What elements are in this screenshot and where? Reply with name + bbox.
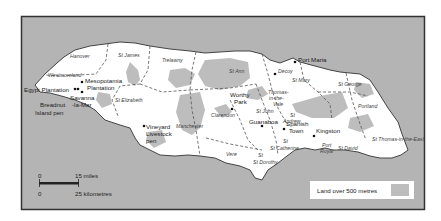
place-label: -la-Mar (72, 101, 92, 108)
parish-label: St Ann (229, 68, 244, 74)
legend-label: Land over 500 metres (317, 187, 377, 194)
scale-km-zero: 0 (38, 190, 42, 197)
parish-label: St Mary (292, 77, 310, 83)
place-label: Egypt Plantation (24, 86, 70, 93)
parish-label: St Thomas-in-the-East (372, 136, 424, 142)
place-label: Town (289, 127, 304, 134)
parish-label: St Elizabeth (115, 97, 143, 103)
parish-label: Clarendon (211, 112, 235, 118)
scale-km-label: 25 kilometres (75, 190, 112, 197)
parish-label: Portland (358, 103, 378, 109)
parish-label: Vere (226, 151, 237, 157)
place-label: Vineyard (146, 123, 171, 130)
place-label: Park (234, 98, 248, 105)
place-label: Mesopotamia (85, 77, 123, 84)
place-label: Royal (320, 148, 334, 154)
scale-bar-line (39, 182, 79, 185)
parish-label: St Catherine (270, 145, 299, 151)
place-label: Breadnut (40, 101, 65, 108)
legend-swatch (391, 184, 409, 196)
parish-label: St David (338, 145, 359, 151)
place-label: Guanaboa (249, 118, 278, 125)
place-label: Plantation (87, 84, 115, 91)
parish-label: Trelawny (162, 57, 183, 63)
place-label: Spanish (286, 120, 309, 127)
place-label: Savanna (70, 94, 95, 101)
parish-label: Manchester (176, 123, 203, 129)
place-label: pen (146, 137, 157, 144)
parish-label: St Dorothy (253, 159, 278, 165)
place-label: Port Maria (298, 56, 327, 63)
place-label: Worthy (230, 91, 250, 98)
parish-label: St (283, 138, 288, 144)
place-label: Island pen (35, 109, 64, 116)
place-label: Decoy (278, 68, 293, 74)
parish-label: St George (338, 81, 362, 87)
parish-label: St John (256, 108, 274, 114)
place-label: Vale (273, 101, 283, 107)
place-label: Livestock (146, 130, 173, 137)
parish-label: Westmoreland (48, 72, 82, 78)
parish-label: Hanover (70, 53, 90, 59)
scale-miles-label: 15 miles (75, 172, 98, 179)
legend: Land over 500 metres (310, 181, 414, 199)
place-label: Kingston (316, 127, 341, 134)
parish-label: St James (118, 52, 140, 58)
scale-miles-zero: 0 (38, 172, 42, 179)
parish-label: St (258, 152, 263, 158)
jamaica-map: Hanover St James Westmoreland Trelawny S… (0, 0, 441, 221)
